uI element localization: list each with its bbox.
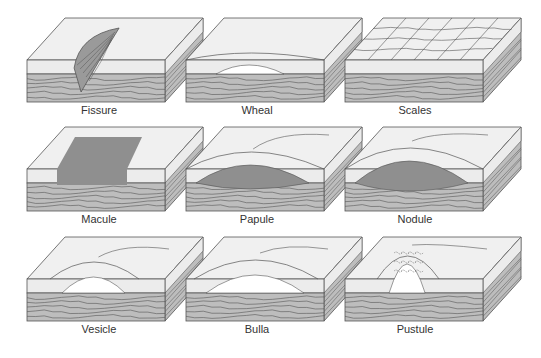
lesion-block-pustule [345,237,521,321]
label-vesicle: Vesicle [39,323,159,335]
label-wheal: Wheal [197,104,317,116]
lesion-block-fissure [27,18,203,102]
lesion-block-wheal [186,18,362,102]
label-bulla: Bulla [197,323,317,335]
lesion-block-nodule [345,127,521,211]
label-scales: Scales [355,104,475,116]
lesion-block-bulla [186,237,362,321]
lesion-block-scales [345,18,521,102]
lesion-block-vesicle [27,237,203,321]
skin-lesion-diagram [0,0,541,358]
label-pustule: Pustule [355,323,475,335]
label-fissure: Fissure [39,104,159,116]
label-nodule: Nodule [355,213,475,225]
lesion-block-papule [186,127,362,211]
label-papule: Papule [197,213,317,225]
label-macule: Macule [39,213,159,225]
lesion-block-macule [27,127,203,211]
